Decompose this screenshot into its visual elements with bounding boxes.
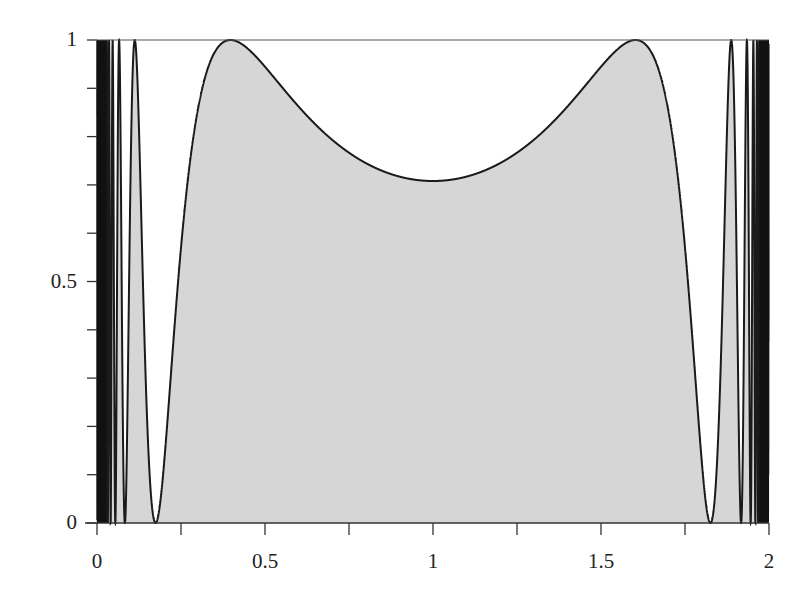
x-tick-label: 2 (739, 551, 799, 572)
y-tick-label: 0.5 (37, 271, 77, 292)
x-tick-label: 1 (403, 551, 463, 572)
y-tick-label: 1 (37, 29, 77, 50)
dense-oscillation-left (97, 40, 106, 523)
x-tick-label: 0.5 (235, 551, 295, 572)
x-tick-label: 0 (67, 551, 127, 572)
x-tick-label: 1.5 (571, 551, 631, 572)
chart-plot (0, 0, 811, 602)
y-tick-label: 0 (37, 512, 77, 533)
dense-oscillation-right (760, 40, 769, 523)
